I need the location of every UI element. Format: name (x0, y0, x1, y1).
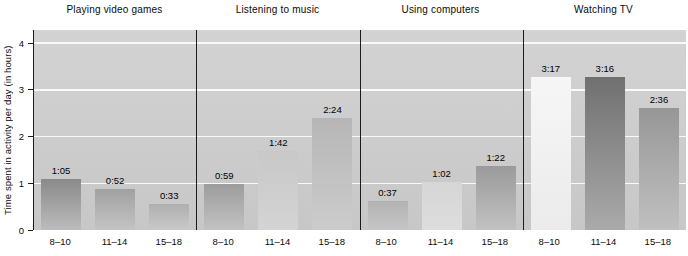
bar-slot-using-computers-15-18: 1:22 (469, 30, 523, 230)
panel-using-computers: 0:371:021:22 (361, 30, 524, 230)
panel-playing-video-games: 1:050:520:33 (34, 30, 197, 230)
panel-listening-to-music: 0:591:422:24 (197, 30, 360, 230)
bar-slot-listening-to-music-15-18: 2:24 (305, 30, 359, 230)
panel-title-playing-video-games: Playing video games (33, 4, 196, 15)
x-tick-label-using-computers-15-18: 15–18 (468, 236, 522, 247)
bar-listening-to-music-11-14 (258, 151, 298, 230)
bar-value-label-watching-tv-11-14: 3:16 (570, 63, 640, 74)
x-tick-label-playing-video-games-11-14: 11–14 (87, 236, 141, 247)
bar-playing-video-games-11-14 (95, 189, 135, 230)
bar-slot-listening-to-music-11-14: 1:42 (251, 30, 305, 230)
panel-watching-tv: 3:173:162:36 (524, 30, 686, 230)
bar-slot-listening-to-music-8-10: 0:59 (197, 30, 251, 230)
y-tick-label-0: 0 (19, 225, 24, 236)
x-label-group-listening-to-music: 8–1011–1415–18 (196, 236, 359, 247)
bar-slot-using-computers-8-10: 0:37 (361, 30, 415, 230)
bar-slot-watching-tv-8-10: 3:17 (524, 30, 578, 230)
x-tick-label-using-computers-8-10: 8–10 (359, 236, 413, 247)
x-axis-labels-row: 8–1011–1415–188–1011–1415–188–1011–1415–… (33, 236, 685, 247)
bar-value-label-listening-to-music-11-14: 1:42 (243, 137, 313, 148)
panel-headers-row: Playing video games Listening to music U… (33, 4, 685, 15)
bar-listening-to-music-8-10 (204, 184, 244, 230)
x-tick-label-listening-to-music-15-18: 15–18 (305, 236, 359, 247)
bar-playing-video-games-8-10 (41, 179, 81, 230)
y-tick-label-2: 2 (19, 131, 24, 142)
x-tick-label-watching-tv-15-18: 15–18 (631, 236, 685, 247)
bar-slot-watching-tv-15-18: 2:36 (632, 30, 686, 230)
bar-watching-tv-8-10 (531, 77, 571, 230)
bar-value-label-using-computers-8-10: 0:37 (353, 187, 423, 198)
bar-value-label-using-computers-15-18: 1:22 (461, 152, 531, 163)
bar-watching-tv-15-18 (639, 108, 679, 230)
x-label-group-using-computers: 8–1011–1415–18 (359, 236, 522, 247)
bar-using-computers-8-10 (368, 201, 408, 230)
x-label-group-playing-video-games: 8–1011–1415–18 (33, 236, 196, 247)
panel-title-using-computers: Using computers (359, 4, 522, 15)
bar-slot-using-computers-11-14: 1:02 (415, 30, 469, 230)
bar-watching-tv-11-14 (585, 77, 625, 230)
bar-value-label-using-computers-11-14: 1:02 (407, 168, 477, 179)
bar-slot-playing-video-games-8-10: 1:05 (34, 30, 88, 230)
x-tick-label-playing-video-games-8-10: 8–10 (33, 236, 87, 247)
x-tick-label-playing-video-games-15-18: 15–18 (142, 236, 196, 247)
y-tick-label-3: 3 (19, 84, 24, 95)
bar-using-computers-15-18 (476, 166, 516, 230)
bar-playing-video-games-15-18 (149, 204, 189, 230)
bar-value-label-listening-to-music-15-18: 2:24 (297, 104, 367, 115)
x-tick-label-watching-tv-11-14: 11–14 (576, 236, 630, 247)
y-tick-label-1: 1 (19, 178, 24, 189)
y-axis: 01234 (0, 30, 33, 230)
plot-area: 1:050:520:330:591:422:240:371:021:223:17… (33, 30, 686, 230)
x-tick-label-watching-tv-8-10: 8–10 (522, 236, 576, 247)
x-label-group-watching-tv: 8–1011–1415–18 (522, 236, 685, 247)
bar-value-label-playing-video-games-11-14: 0:52 (80, 175, 150, 186)
bar-value-label-listening-to-music-8-10: 0:59 (189, 170, 259, 181)
panel-title-listening-to-music: Listening to music (196, 4, 359, 15)
bar-listening-to-music-15-18 (312, 118, 352, 230)
bar-value-label-playing-video-games-15-18: 0:33 (134, 190, 204, 201)
bar-using-computers-11-14 (422, 182, 462, 230)
x-tick-label-using-computers-11-14: 11–14 (413, 236, 467, 247)
bar-value-label-watching-tv-15-18: 2:36 (624, 94, 688, 105)
x-tick-label-listening-to-music-8-10: 8–10 (196, 236, 250, 247)
x-tick-label-listening-to-music-11-14: 11–14 (250, 236, 304, 247)
bar-slot-watching-tv-11-14: 3:16 (578, 30, 632, 230)
bar-chart-figure: Playing video games Listening to music U… (0, 0, 688, 256)
y-tick-label-4: 4 (19, 38, 24, 49)
bar-slot-playing-video-games-15-18: 0:33 (142, 30, 196, 230)
panel-title-watching-tv: Watching TV (522, 4, 685, 15)
